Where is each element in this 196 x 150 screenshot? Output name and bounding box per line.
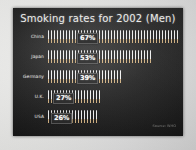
bar-value-label: 39% bbox=[77, 73, 98, 84]
presentation-slide: Smoking rates for 2002 (Men) China 67% J… bbox=[13, 8, 183, 136]
bar-fill-japan bbox=[47, 50, 151, 63]
bar-chart: China 67% Japan 53% Germany 3 bbox=[13, 28, 183, 136]
bar-value-label: 53% bbox=[77, 53, 98, 64]
page-title: Smoking rates for 2002 (Men) bbox=[13, 13, 183, 24]
photograph-frame: Smoking rates for 2002 (Men) China 67% J… bbox=[0, 0, 196, 150]
bar-track-china bbox=[47, 30, 178, 43]
bar-row-japan: Japan 53% bbox=[13, 50, 183, 63]
bar-row-china: China 67% bbox=[13, 30, 183, 43]
bar-value-label: 67% bbox=[77, 33, 98, 44]
bar-category-label: USA bbox=[15, 110, 44, 123]
bar-value-label: 26% bbox=[51, 113, 72, 124]
source-note: Source: WHO bbox=[152, 124, 176, 128]
bar-category-label: Germany bbox=[15, 70, 44, 83]
bar-fill-china bbox=[47, 30, 178, 43]
bar-row-germany: Germany 39% bbox=[13, 70, 183, 83]
bar-row-uk: U.K. 27% bbox=[13, 90, 183, 103]
bar-value-label: 27% bbox=[53, 93, 74, 104]
bar-track-japan bbox=[47, 50, 151, 63]
bar-category-label: U.K. bbox=[15, 90, 44, 103]
bar-row-usa: USA 26% bbox=[13, 110, 183, 123]
bar-category-label: Japan bbox=[15, 50, 44, 63]
bar-category-label: China bbox=[15, 30, 44, 43]
